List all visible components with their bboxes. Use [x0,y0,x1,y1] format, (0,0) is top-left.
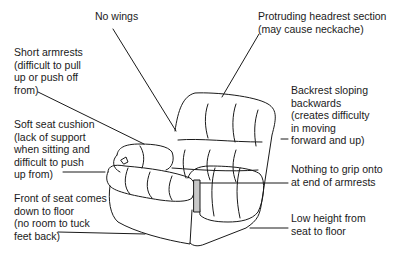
label-front-of-seat: Front of seat comes down to floor (no ro… [14,192,107,242]
label-soft-seat: Soft seat cushion (lack of support when … [14,118,95,181]
label-nothing-to-grip: Nothing to grip onto at end of armrests [291,163,383,188]
label-no-wings: No wings [95,10,138,23]
label-low-height: Low height from seat to floor [291,212,366,237]
leader-headrest [222,34,259,97]
leader-no-wings [113,29,176,131]
chair-diagram: No wings Protruding headrest section (ma… [0,0,399,253]
label-backrest: Backrest sloping backwards (creates diff… [291,84,370,147]
label-headrest: Protruding headrest section (may cause n… [258,10,386,35]
label-short-armrests: Short armrests (difficult to pull up or … [14,46,83,96]
